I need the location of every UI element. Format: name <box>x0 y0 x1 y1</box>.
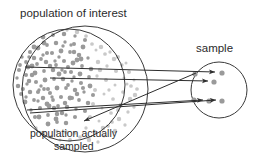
population-dot-light <box>123 123 126 126</box>
population-dot-dark <box>54 63 58 67</box>
population-dot-dark <box>79 81 83 85</box>
population-dot-dark <box>45 102 50 107</box>
population-dot-dark <box>35 62 39 66</box>
population-dot-dark <box>61 44 64 47</box>
population-dot-dark <box>62 59 66 63</box>
population-dot-dark <box>83 38 87 42</box>
population-actually-sampled-label-line2: sampled <box>54 140 94 152</box>
population-dot-dark <box>63 40 66 43</box>
population-dot-dark <box>60 111 64 115</box>
sample-label: sample <box>196 42 233 54</box>
population-dot-dark <box>88 84 93 89</box>
population-dot-dark <box>71 61 76 66</box>
population-dot-dark <box>41 96 45 100</box>
population-dot-light <box>126 110 129 113</box>
population-dot-light <box>129 84 133 88</box>
population-dot-dark <box>81 86 85 90</box>
population-dot-dark <box>59 95 63 99</box>
population-dot-dark <box>28 50 32 54</box>
population-dot-dark <box>64 121 68 125</box>
population-dot-dark <box>28 90 32 94</box>
population-dot-dark <box>15 76 18 79</box>
population-dot-dark <box>73 88 77 92</box>
population-dot-dark <box>46 113 50 117</box>
population-dot-dark <box>62 32 66 36</box>
population-dot-dark <box>69 43 72 46</box>
sample-circle <box>191 62 247 118</box>
population-dot-dark <box>44 60 48 64</box>
population-dot-dark <box>68 50 72 54</box>
population-dot-dark <box>37 115 42 120</box>
population-dot-dark <box>51 68 55 72</box>
population-dot-dark <box>18 63 22 67</box>
population-dot-light <box>96 140 99 143</box>
population-dot-light <box>111 97 115 101</box>
population-dot-dark <box>46 122 51 127</box>
population-dot-dark <box>75 92 79 96</box>
sampling-arrows <box>25 67 216 121</box>
population-dot-dark <box>79 57 84 62</box>
sample-dot <box>219 98 224 103</box>
population-dot-light <box>133 93 137 97</box>
population-dot-dark <box>16 84 20 88</box>
population-dot-dark <box>73 115 77 119</box>
population-dot-dark <box>30 73 34 77</box>
population-dot-dark <box>24 95 27 98</box>
population-dot-dark <box>53 59 56 62</box>
population-dot-dark <box>39 84 42 87</box>
population-dot-light <box>108 50 111 53</box>
population-dot-dark <box>42 87 46 91</box>
population-dot-dark <box>77 98 81 102</box>
population-dot-dark <box>91 93 95 97</box>
population-dot-light <box>95 49 98 52</box>
population-dot-dark <box>57 55 60 58</box>
population-dot-dark <box>32 98 36 102</box>
population-dot-dark <box>32 45 37 50</box>
population-dot-dark <box>51 98 55 102</box>
population-dot-light <box>114 84 117 87</box>
sampling-diagram: population of interest population actual… <box>0 0 265 163</box>
population-dot-dark <box>60 68 63 71</box>
population-dot-dark <box>50 51 54 55</box>
population-dot-dark <box>43 78 48 83</box>
population-dot-dark <box>33 115 37 119</box>
diagram-canvas: population of interest population actual… <box>0 0 265 163</box>
population-dot-dark <box>48 91 52 95</box>
population-dot-light <box>93 88 97 92</box>
population-dot-light <box>109 111 113 115</box>
population-dot-light <box>117 117 121 121</box>
population-dot-light <box>96 60 100 64</box>
population-dot-light <box>103 93 106 96</box>
population-dot-light <box>135 87 139 91</box>
population-dot-dark <box>24 73 28 77</box>
population-dot-dark <box>70 96 74 100</box>
population-dot-light <box>99 45 103 49</box>
population-dot-dark <box>86 56 89 59</box>
population-dot-dark <box>81 45 86 50</box>
population-dot-dark <box>55 112 59 116</box>
population-dot-dark <box>73 34 76 37</box>
population-dot-dark <box>64 113 67 116</box>
population-dot-dark <box>82 90 85 93</box>
population-dot-light <box>112 57 116 61</box>
population-dot-light <box>126 83 129 86</box>
population-dot-dark <box>27 79 31 83</box>
population-dot-dark <box>39 57 43 61</box>
population-dot-dark <box>32 56 36 60</box>
population-dot-dark <box>54 117 59 122</box>
population-dot-dark <box>72 50 76 54</box>
sample-dots <box>191 70 224 103</box>
population-dot-dark <box>54 41 58 45</box>
population-dot-light <box>107 88 110 91</box>
population-dot-dark <box>69 70 73 74</box>
population-dot-light <box>125 62 128 65</box>
population-dot-light <box>91 102 95 106</box>
population-dot-light <box>75 30 79 34</box>
population-dot-dark <box>77 53 81 57</box>
population-dot-dark <box>36 99 39 102</box>
population-dot-light <box>127 70 131 74</box>
population-dot-light <box>95 74 98 77</box>
population-dot-dark <box>66 83 70 87</box>
population-dot-light <box>105 64 108 67</box>
population-dot-dark <box>22 46 25 49</box>
